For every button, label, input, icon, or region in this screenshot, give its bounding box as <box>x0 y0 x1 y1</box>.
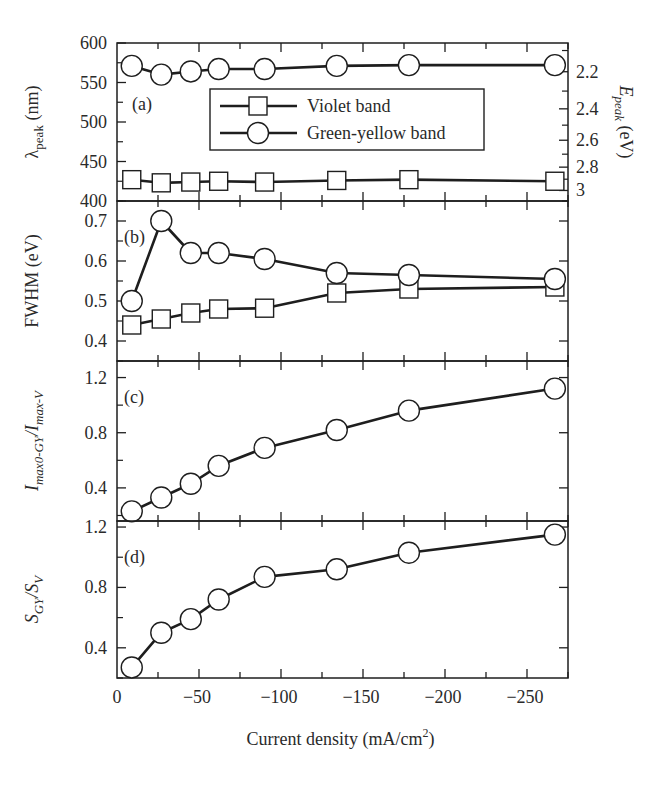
x-axis: 0−50−100−150−200−250Current density (mA/… <box>113 687 544 750</box>
circle-marker <box>180 609 201 630</box>
square-marker <box>182 304 200 322</box>
circle-marker <box>254 566 275 587</box>
y-tick-label: 0.4 <box>85 331 108 351</box>
circle-marker <box>398 542 419 563</box>
y-tick-label: 0.4 <box>85 478 108 498</box>
x-tick-label: −50 <box>183 687 211 707</box>
secondary-y-axis-label: Epeak (eV) <box>612 84 636 158</box>
y-tick-label: 550 <box>80 73 107 93</box>
panel-tag: (a) <box>132 94 152 115</box>
secondary-y-tick-label: 3 <box>576 180 585 200</box>
secondary-y-tick-label: 2.8 <box>576 157 599 177</box>
circle-marker <box>326 263 347 284</box>
secondary-y-tick-label: 2.2 <box>576 62 599 82</box>
y-tick-label: 1.2 <box>85 517 108 537</box>
circle-marker <box>121 657 142 678</box>
square-marker <box>328 171 346 189</box>
legend: Violet bandGreen-yellow band <box>210 89 484 150</box>
circle-marker <box>208 589 229 610</box>
series-line <box>132 535 555 668</box>
y-tick-label: 0.8 <box>85 577 108 597</box>
y-tick-label: 0.4 <box>85 638 108 658</box>
circle-marker <box>326 419 347 440</box>
square-marker <box>400 171 418 189</box>
circle-marker <box>121 55 142 76</box>
y-tick-label: 1.2 <box>85 368 108 388</box>
x-tick-label: −250 <box>506 687 543 707</box>
y-axis-label: λpeak (nm) <box>22 86 46 159</box>
square-marker <box>123 316 141 334</box>
circle-marker <box>398 265 419 286</box>
secondary-y-tick-label: 2.6 <box>576 130 599 150</box>
circle-marker <box>151 487 172 508</box>
circle-marker <box>121 501 142 522</box>
y-tick-label: 400 <box>80 191 107 211</box>
circle-marker <box>254 437 275 458</box>
y-tick-label: 500 <box>80 112 107 132</box>
panel-d: 0.40.81.2SGY/SV(d) <box>22 517 568 678</box>
circle-marker <box>180 243 201 264</box>
square-marker <box>256 173 274 191</box>
circle-marker <box>544 55 565 76</box>
y-axis-label: SGY/SV <box>22 574 46 624</box>
y-tick-label: 0.7 <box>85 211 108 231</box>
y-axis-label: Imax0-GY/Imax-V <box>22 389 46 492</box>
panel-tag: (d) <box>124 547 145 568</box>
square-marker <box>182 173 200 191</box>
y-tick-label: 0.5 <box>85 291 108 311</box>
y-tick-label: 600 <box>80 33 107 53</box>
square-marker <box>123 171 141 189</box>
circle-marker <box>151 64 172 85</box>
legend-label: Violet band <box>307 96 390 116</box>
square-marker <box>210 300 228 318</box>
circle-marker <box>180 61 201 82</box>
circle-marker <box>398 400 419 421</box>
circle-marker <box>326 55 347 76</box>
circle-marker <box>254 59 275 80</box>
secondary-y-tick-label: 2.4 <box>576 99 599 119</box>
circle-marker <box>326 559 347 580</box>
circle-marker <box>180 473 201 494</box>
x-tick-label: −150 <box>342 687 379 707</box>
plot-frame <box>117 521 568 678</box>
square-marker <box>546 172 564 190</box>
circle-marker <box>208 455 229 476</box>
square-marker <box>256 299 274 317</box>
y-tick-label: 450 <box>80 152 107 172</box>
panel-b: 0.40.50.60.7FWHM (eV)(b) <box>22 201 568 361</box>
x-tick-label: 0 <box>113 687 122 707</box>
panel-tag: (c) <box>124 387 144 408</box>
square-marker <box>152 310 170 328</box>
figure: 4004505005506002.22.42.62.83Epeak (eV)λp… <box>0 0 672 787</box>
plot-frame <box>117 361 568 521</box>
legend-square-marker <box>249 97 267 115</box>
panel-c: 0.40.81.2Imax0-GY/Imax-V(c) <box>22 361 568 522</box>
circle-marker <box>544 378 565 399</box>
x-tick-label: −100 <box>260 687 297 707</box>
panel-tag: (b) <box>124 227 145 248</box>
square-marker <box>152 174 170 192</box>
x-axis-label: Current density (mA/cm2) <box>247 726 435 750</box>
x-tick-label: −200 <box>424 687 461 707</box>
circle-marker <box>398 55 419 76</box>
y-tick-label: 0.6 <box>85 251 108 271</box>
circle-marker <box>121 291 142 312</box>
circle-marker <box>208 243 229 264</box>
circle-marker <box>208 59 229 80</box>
circle-marker <box>254 249 275 270</box>
square-marker <box>210 172 228 190</box>
y-tick-label: 0.8 <box>85 423 108 443</box>
circle-marker <box>544 524 565 545</box>
circle-marker <box>151 622 172 643</box>
circle-marker <box>544 269 565 290</box>
legend-circle-marker <box>248 123 269 144</box>
y-axis-label: FWHM (eV) <box>22 234 43 327</box>
circle-marker <box>151 211 172 232</box>
square-marker <box>328 284 346 302</box>
legend-label: Green-yellow band <box>307 123 445 143</box>
